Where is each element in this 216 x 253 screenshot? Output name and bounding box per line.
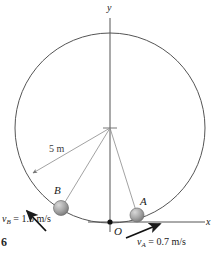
origin-point: [107, 219, 112, 224]
radius-line-a: [110, 128, 137, 214]
ball-b: [54, 201, 69, 216]
ball-b-label: B: [54, 185, 61, 196]
velocity-a-equals: =: [148, 236, 154, 247]
x-axis-label: x: [206, 217, 210, 227]
velocity-b-units: m/s: [36, 213, 50, 224]
velocity-a-value: 0.7: [156, 236, 169, 247]
radius-dimension-label: 5 m: [49, 144, 64, 154]
radius-line-b: [62, 128, 110, 207]
ball-a: [130, 208, 144, 222]
velocity-a-subscript: A: [141, 241, 145, 249]
radius-leader-line: [33, 128, 110, 173]
ball-a-label: A: [140, 196, 147, 207]
page-number: 6: [1, 238, 7, 249]
physics-figure: y x O 5 m A B vA = 0.7 m/s vB = 1.5 m/s …: [0, 0, 216, 253]
origin-label: O: [114, 226, 122, 237]
y-axis-label: y: [107, 3, 111, 13]
velocity-b-label: vB = 1.5 m/s: [2, 214, 51, 226]
velocity-a-label: vA = 0.7 m/s: [137, 237, 186, 249]
velocity-b-equals: =: [13, 213, 19, 224]
velocity-b-subscript: B: [6, 218, 10, 226]
velocity-a-units: m/s: [171, 236, 185, 247]
velocity-b-value: 1.5: [21, 213, 34, 224]
